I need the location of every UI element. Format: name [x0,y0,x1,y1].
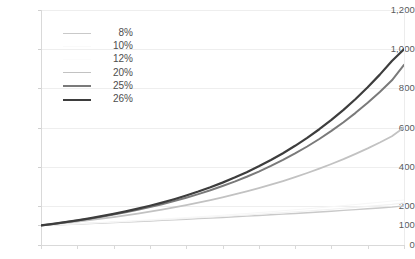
legend-swatch-icon-8pct [63,33,91,34]
legend-swatch-icon-10pct [63,46,91,47]
series-line-12pct [41,200,404,225]
chart-legend: 8%10%12%20%25%26% [63,26,133,105]
plot-right-border [404,10,405,246]
legend-item-20pct[interactable]: 20% [63,66,133,79]
x-tick-mark-9 [368,245,369,249]
legend-item-26pct[interactable]: 26% [63,92,133,105]
x-tick-mark-4 [186,245,187,249]
x-tick-label-10 [382,251,415,259]
x-tick-mark-8 [331,245,332,249]
x-tick-mark-6 [259,245,260,249]
x-tick-mark-7 [295,245,296,249]
legend-item-8pct[interactable]: 8% [63,26,133,39]
legend-swatch-icon-26pct [63,99,91,101]
x-tick-mark-5 [223,245,224,249]
legend-item-25pct[interactable]: 25% [63,79,133,92]
legend-item-12pct[interactable]: 12% [63,52,133,65]
x-tick-mark-0 [41,245,42,249]
series-line-10pct [41,203,404,226]
x-tick-mark-3 [150,245,151,249]
legend-swatch-icon-25pct [63,85,91,87]
legend-swatch-icon-12pct [63,59,91,60]
line-chart: 01002004006008001,0001,200 8%10%12%20%25… [0,0,415,259]
legend-swatch-icon-20pct [63,72,91,73]
x-tick-mark-2 [114,245,115,249]
x-tick-mark-10 [404,245,405,249]
x-tick-mark-1 [77,245,78,249]
legend-item-10pct[interactable]: 10% [63,39,133,52]
legend-label: 8% [87,26,133,39]
series-line-20pct [41,128,404,226]
